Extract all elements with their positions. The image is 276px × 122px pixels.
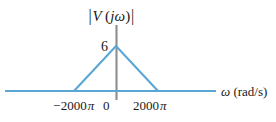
x-axis-label: ω (rad/s) (221, 85, 267, 98)
title-bar-right: | (131, 7, 135, 24)
title-v-symbol: V (92, 8, 101, 24)
xtick-positive-number: 2000 (133, 98, 159, 113)
omega-symbol: ω (221, 84, 230, 99)
plot-title: |V (jω)| (88, 8, 135, 24)
peak-value-label: 6 (101, 40, 108, 54)
xtick-label-zero: 0 (103, 99, 110, 112)
title-close-paren: ) (125, 8, 130, 24)
xtick-negative-number: 2000 (61, 98, 87, 113)
pi-symbol-positive: π (159, 98, 167, 113)
pi-symbol-negative: π (87, 98, 95, 113)
minus-sign: − (53, 98, 61, 113)
x-axis-units: (rad/s) (230, 84, 267, 99)
xtick-label-positive: 2000π (133, 99, 167, 112)
title-omega-symbol: ω (115, 8, 126, 24)
xtick-label-negative: −2000π (53, 99, 94, 112)
spectrum-figure: |V (jω)| 6 −2000π 0 2000π ω (rad/s) (0, 0, 276, 122)
